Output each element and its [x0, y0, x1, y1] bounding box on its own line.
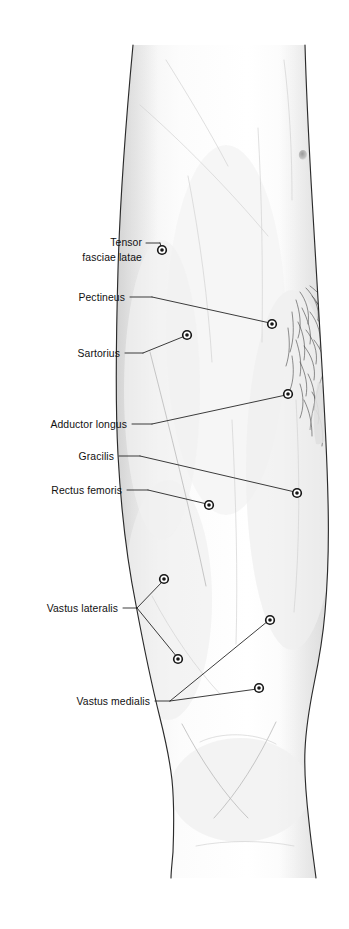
- label-line: Sartorius: [78, 348, 120, 359]
- label-line: Pectineus: [78, 292, 125, 303]
- label-rectus-femoris: Rectus femoris: [51, 485, 122, 496]
- label-vastus-lateralis: Vastus lateralis: [47, 603, 118, 614]
- label-line: Gracilis: [79, 451, 114, 462]
- marker-center-dot: [207, 503, 211, 507]
- thigh-shading-group: [112, 45, 338, 878]
- marker-sartorius[interactable]: Sartorius: [182, 330, 192, 340]
- marker-vastus-lateralis-1[interactable]: Vastus lateralis: [159, 574, 169, 584]
- label-line: fasciae latae: [82, 252, 142, 263]
- label-line: Adductor longus: [50, 419, 127, 430]
- marker-center-dot: [185, 333, 189, 337]
- marker-vastus-medialis-2[interactable]: Vastus medialis: [254, 683, 264, 693]
- marker-rectus-femoris[interactable]: Rectus femoris: [204, 500, 214, 510]
- label-sartorius: Sartorius: [78, 348, 120, 359]
- label-pectineus: Pectineus: [78, 292, 125, 303]
- anatomy-figure-page: Tensorfasciae lataeTensor fasciae lataeP…: [0, 0, 349, 929]
- marker-center-dot: [160, 248, 164, 252]
- marker-center-dot: [257, 686, 261, 690]
- marker-center-dot: [286, 392, 290, 396]
- marker-center-dot: [176, 657, 180, 661]
- marker-vastus-lateralis-2[interactable]: Vastus lateralis: [173, 654, 183, 664]
- thigh-illustration: [112, 45, 338, 878]
- adductor-group-shadow: [124, 240, 200, 540]
- marker-adductor-longus[interactable]: Adductor longus: [283, 389, 293, 399]
- marker-gracilis[interactable]: Gracilis: [292, 488, 302, 498]
- label-gracilis: Gracilis: [79, 451, 114, 462]
- marker-vastus-medialis-1[interactable]: Vastus medialis: [265, 615, 275, 625]
- marker-pectineus[interactable]: Pectineus: [267, 319, 277, 329]
- label-adductor-longus: Adductor longus: [50, 419, 127, 430]
- anatomy-illustration-canvas: Tensorfasciae lataeTensor fasciae lataeP…: [0, 0, 349, 929]
- label-line: Rectus femoris: [51, 485, 122, 496]
- label-line: Vastus medialis: [77, 696, 151, 707]
- marker-center-dot: [270, 322, 274, 326]
- marker-center-dot: [295, 491, 299, 495]
- label-vastus-medialis: Vastus medialis: [77, 696, 151, 707]
- mole-icon: [299, 150, 307, 160]
- marker-center-dot: [268, 618, 272, 622]
- label-line: Vastus lateralis: [47, 603, 118, 614]
- knee-shadow: [170, 738, 310, 842]
- label-line: Tensor: [110, 237, 142, 248]
- marker-center-dot: [162, 577, 166, 581]
- marker-tensor-fasciae-latae[interactable]: Tensor fasciae latae: [157, 245, 167, 255]
